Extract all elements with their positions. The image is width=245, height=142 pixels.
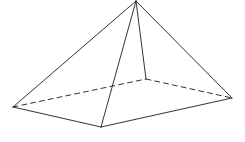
edge-left-back-hidden (13, 79, 146, 107)
edge-apex-left (13, 1, 136, 107)
edge-left-front (13, 107, 101, 127)
edge-apex-right (136, 1, 232, 98)
edge-front-right (101, 98, 232, 127)
edge-apex-back (136, 1, 146, 79)
edge-back-right-hidden (146, 79, 232, 98)
edge-apex-front (101, 1, 136, 127)
pyramid-edges (13, 1, 232, 127)
pyramid-diagram (0, 0, 245, 142)
